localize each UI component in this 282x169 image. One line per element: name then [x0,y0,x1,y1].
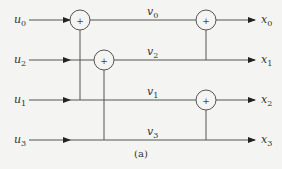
intermediate-label-v2: v2 [147,45,158,60]
adder-u0-u1: + [70,10,90,30]
plus-icon: + [100,56,108,66]
intermediate-label-v3: v3 [147,125,158,140]
output-label-x1: x1 [261,53,272,68]
adder-u2-u3: + [94,50,114,70]
figure-caption: (a) [134,148,148,159]
output-label-x0: x0 [261,13,272,28]
intermediate-label-v1: v1 [147,85,158,100]
plus-icon: + [202,16,210,26]
input-label-u1: u1 [14,93,26,108]
input-label-u0: u0 [14,13,26,28]
adder-v1-v3: + [196,90,216,110]
intermediate-label-v0: v0 [147,5,158,20]
plus-icon: + [76,16,84,26]
input-label-u3: u3 [14,133,26,148]
adder-v0-v2: + [196,10,216,30]
output-label-x3: x3 [261,133,272,148]
output-label-x2: x2 [261,93,272,108]
input-label-u2: u2 [14,53,26,68]
butterfly-diagram: u0 u2 u1 u3 + + + + v0 v2 v1 v3 x0 x1 x2… [0,0,282,169]
plus-icon: + [202,96,210,106]
